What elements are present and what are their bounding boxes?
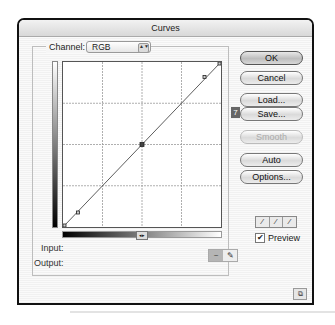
- channel-value: RGB: [92, 42, 110, 52]
- curves-dialog: Curves Channel: RGB ▲▼: [17, 18, 314, 305]
- channel-select[interactable]: RGB ▲▼: [86, 41, 151, 53]
- preview-checkbox[interactable]: ✔: [255, 233, 265, 243]
- curve-point[interactable]: [63, 224, 66, 227]
- preview-label: Preview: [268, 233, 300, 243]
- expand-icon[interactable]: ⧉: [293, 288, 307, 300]
- preview-checkbox-row[interactable]: ✔ Preview: [255, 233, 300, 243]
- curve-point[interactable]: [77, 211, 80, 214]
- underlying-window-edge: [70, 311, 335, 313]
- output-gradient-bar: [52, 61, 58, 228]
- white-eyedropper-icon[interactable]: ⁄: [283, 217, 296, 227]
- curve-plot: [63, 62, 221, 227]
- smooth-button[interactable]: Smooth: [240, 130, 303, 144]
- curve-tool-button[interactable]: ~: [209, 250, 223, 261]
- curve-tools: ~ ✎: [208, 249, 238, 262]
- auto-button[interactable]: Auto: [240, 153, 303, 167]
- curve-point[interactable]: [203, 76, 206, 79]
- black-eyedropper-icon[interactable]: ⁄: [256, 217, 270, 227]
- input-gradient-bar: ◂▸: [62, 231, 222, 238]
- curve-point[interactable]: [218, 62, 221, 65]
- eyedropper-group: ⁄ ⁄ ⁄: [255, 216, 297, 228]
- cancel-button[interactable]: Cancel: [240, 71, 303, 85]
- channel-label: Channel:: [46, 41, 88, 53]
- select-arrows-icon: ▲▼: [138, 43, 149, 53]
- curve-graph[interactable]: [62, 61, 222, 228]
- gradient-toggle-button[interactable]: ◂▸: [136, 231, 148, 240]
- save-shortcut-badge: 7: [231, 107, 240, 118]
- gray-eyedropper-icon[interactable]: ⁄: [270, 217, 284, 227]
- ok-button[interactable]: OK: [240, 51, 303, 65]
- pencil-tool-button[interactable]: ✎: [223, 250, 237, 261]
- options-button[interactable]: Options...: [240, 170, 303, 184]
- save-button[interactable]: Save...: [240, 107, 303, 121]
- load-button[interactable]: Load...: [240, 93, 303, 107]
- input-label: Input:: [41, 243, 64, 253]
- output-label: Output:: [34, 258, 64, 268]
- window-title: Curves: [19, 20, 312, 37]
- curve-point-selected[interactable]: [140, 143, 144, 147]
